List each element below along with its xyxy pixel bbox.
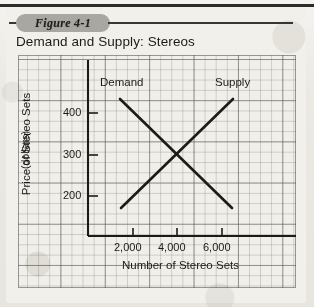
y-axis-units-label: (dollars) [19,119,31,181]
demand-curve-label: Demand [100,76,143,88]
supply-curve-label: Supply [215,76,250,88]
x-axis-tick-label-4000: 4,000 [158,241,186,253]
figure-header-rule [108,22,293,24]
scanned-page: Figure 4-1 Demand and Supply: Stereos 40… [0,0,314,307]
chart-title: Demand and Supply: Stereos [16,34,195,49]
y-axis-tick-label-400: 400 [63,106,81,118]
y-axis-tick-label-200: 200 [63,189,81,201]
x-axis-title: Number of Stereo Sets [122,259,239,271]
figure-number-badge: Figure 4-1 [16,14,110,32]
top-divider-rule [0,4,314,7]
graph-paper-grid [18,55,296,288]
figure-number-label: Figure 4-1 [35,16,91,31]
y-axis-tick-label-300: 300 [63,148,81,160]
x-axis-tick-label-2000: 2,000 [114,241,142,253]
x-axis-tick-label-6000: 6,000 [203,241,231,253]
